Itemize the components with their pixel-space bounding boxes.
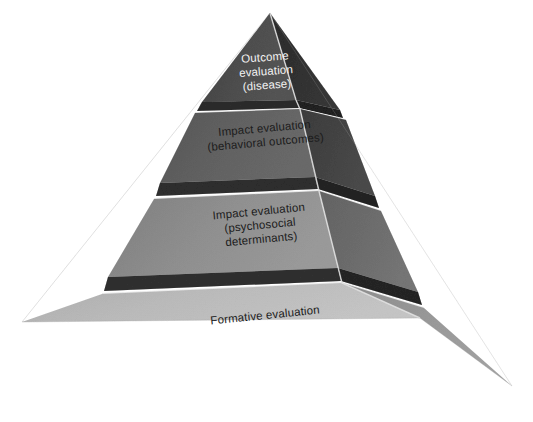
tier-1-front-face-fill xyxy=(202,13,296,102)
pyramid-graphic xyxy=(0,0,533,422)
evaluation-pyramid-figure: Outcome evaluation (disease) Impact eval… xyxy=(0,0,533,422)
figure-caption-fragment xyxy=(6,413,246,422)
tier-3-front-face xyxy=(108,191,338,277)
tier-2-front-face xyxy=(160,109,315,183)
